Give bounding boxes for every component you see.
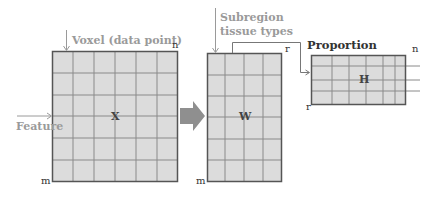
nmf-diagram: Voxel (data point) n Feature X m Subregi… (0, 0, 438, 198)
feature-arrow-icon (17, 113, 52, 119)
subregion-arrow-icon (213, 8, 219, 53)
matrix-h-name: H (359, 74, 369, 85)
subregion-label-line2: tissue types (220, 26, 293, 37)
matrix-x-rows-label: m (41, 176, 50, 186)
matrix-w-name: W (239, 111, 251, 122)
matrix-h-cols-label: n (412, 44, 418, 54)
matrix-w-cols-label: r (285, 44, 290, 54)
matrix-h-rows-label: r (306, 102, 311, 112)
matrix-x-cols-label: n (172, 40, 178, 50)
proportion-label: Proportion (307, 40, 377, 52)
diagram-canvas (0, 0, 438, 198)
voxel-arrow-icon (64, 30, 70, 51)
feature-label: Feature (16, 121, 63, 132)
matrix-w-rows-label: m (196, 176, 205, 186)
subregion-label-line1: Subregion (220, 12, 284, 23)
transform-arrow-icon (180, 101, 205, 131)
voxel-label: Voxel (data point) (72, 35, 182, 46)
matrix-x-name: X (111, 111, 120, 122)
